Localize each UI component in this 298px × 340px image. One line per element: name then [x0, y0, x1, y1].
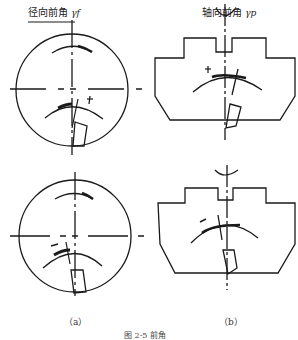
- negative-sign-icon: [51, 244, 58, 246]
- figure-caption: 图 2-5 前角: [124, 329, 166, 340]
- sub-caption-b: （b）: [219, 315, 243, 328]
- cutting-tool: [71, 270, 86, 293]
- cutting-tool: [73, 122, 87, 146]
- cutting-tool: [226, 104, 241, 128]
- panel-b-positive-rake: [155, 4, 295, 140]
- panel-a-positive-rake: [10, 20, 148, 155]
- cutting-tool: [223, 250, 237, 274]
- negative-sign-icon: [200, 219, 206, 222]
- cutter-circle: [16, 34, 128, 146]
- sub-caption-a: （a）: [64, 315, 87, 328]
- panel-a-negative-rake: [10, 172, 148, 296]
- positive-sign-icon: [87, 96, 93, 104]
- panel-b-negative-rake: [158, 165, 295, 290]
- positive-sign-icon: [205, 66, 211, 73]
